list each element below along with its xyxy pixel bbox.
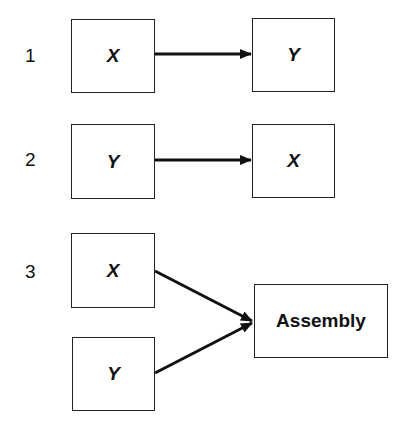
box-row1-target: Y: [252, 18, 335, 92]
box-row2-target: X: [252, 124, 335, 198]
arrows-layer: [0, 0, 411, 430]
box-assembly: Assembly: [254, 284, 388, 358]
box-label: Y: [107, 363, 120, 385]
arrow-row3-y: [155, 323, 252, 373]
box-label: Assembly: [276, 310, 366, 332]
arrow-row3-x: [155, 271, 252, 321]
row-label-1: 1: [25, 45, 36, 67]
box-label: Y: [107, 151, 120, 173]
box-row2-source: Y: [71, 124, 155, 199]
row-label-2: 2: [25, 149, 36, 171]
box-row3-source-x: X: [71, 233, 155, 308]
box-label: X: [107, 45, 120, 67]
box-row3-source-y: Y: [72, 337, 155, 411]
box-row1-source: X: [71, 19, 155, 93]
row-label-3: 3: [25, 261, 36, 283]
box-label: X: [287, 150, 300, 172]
box-label: X: [107, 260, 120, 282]
box-label: Y: [287, 44, 300, 66]
